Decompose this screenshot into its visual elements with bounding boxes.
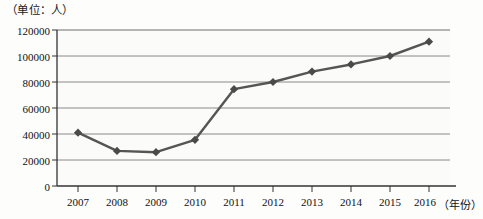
- x-axis-tick-labels: 2007 2008 2009 2010 2011 2012 2013 2014 …: [0, 0, 483, 219]
- chart-page: （单位：人） 120000 100000 80000 60000 40000 2…: [0, 0, 483, 219]
- x-axis-title: （年份）: [438, 196, 482, 212]
